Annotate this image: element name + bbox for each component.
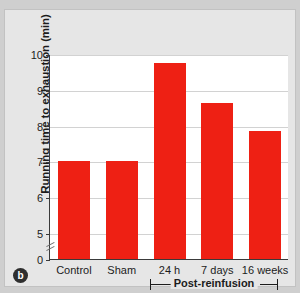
bar-24-h: 24 h	[154, 63, 186, 259]
plot-area: 05678910ControlSham24 h7 days16 weeks	[49, 55, 288, 260]
y-axis-tick-label: 7	[37, 156, 43, 168]
bar-16-weeks: 16 weeks	[249, 131, 281, 259]
bar-control: Control	[58, 161, 90, 259]
y-axis-tick	[46, 90, 50, 91]
x-axis-category-label: 7 days	[201, 264, 233, 276]
panel-label-b: b	[13, 268, 28, 283]
y-axis-tick	[46, 260, 50, 261]
x-axis-category-label: 16 weeks	[242, 264, 288, 276]
bar-7-days: 7 days	[201, 103, 233, 259]
x-axis-category-label: Control	[56, 264, 91, 276]
y-axis-break-icon	[45, 242, 56, 252]
figure-panel: Running time to exhaustion (min) 0567891…	[0, 0, 300, 293]
y-axis-tick-label: 5	[37, 228, 43, 240]
y-axis-tick-label: 6	[37, 192, 43, 204]
y-axis-tick-label: 8	[37, 121, 43, 133]
group-bracket-label: Post-reinfusion	[171, 277, 258, 289]
y-axis-tick	[46, 126, 50, 127]
x-axis-category-label: 24 h	[159, 264, 180, 276]
y-axis-tick	[46, 234, 50, 235]
y-axis-tick	[46, 198, 50, 199]
y-axis-tick-label: 9	[37, 85, 43, 97]
x-axis-category-label: Sham	[107, 264, 136, 276]
group-bracket: Post-reinfusion	[150, 278, 278, 292]
y-axis-tick-label: 0	[37, 254, 43, 266]
bar-sham: Sham	[106, 161, 138, 259]
y-axis-tick	[46, 55, 50, 56]
figure-inner-frame: Running time to exhaustion (min) 0567891…	[4, 9, 296, 287]
y-axis-tick	[46, 162, 50, 163]
y-axis-tick-label: 10	[31, 49, 43, 61]
gridline	[50, 55, 288, 56]
